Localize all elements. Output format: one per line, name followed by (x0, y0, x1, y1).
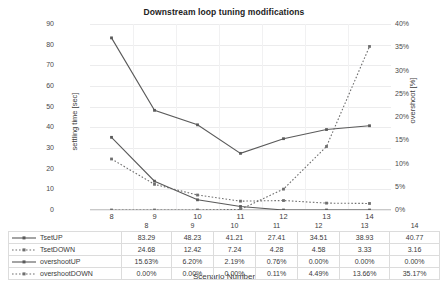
data-point-marker (153, 180, 156, 183)
y-axis-left-tick-label: 0 (26, 206, 54, 213)
y-axis-left-tick-label: 90 (26, 20, 54, 27)
data-point-marker (196, 194, 199, 197)
table-cell: 83.29 (122, 232, 172, 244)
data-point-marker (153, 209, 156, 210)
table-cell: 0.00% (213, 268, 255, 280)
y-axis-left-tick-label: 30 (26, 144, 54, 151)
legend-marker-tsetup (11, 234, 37, 242)
data-point-marker (282, 137, 285, 140)
legend-label: TsetUP (40, 234, 63, 241)
data-point-marker (282, 188, 285, 191)
series-line-overshootup (112, 137, 370, 210)
table-cell: 38.93 (340, 232, 390, 244)
legend-item-tsetdown[interactable]: TsetDOWN (9, 244, 122, 256)
data-point-marker (282, 209, 285, 210)
table-row: TsetUP83.2948.2341.2127.4134.5138.9340.7… (9, 232, 440, 244)
data-point-marker (110, 158, 113, 161)
table-cell: 6.20% (171, 256, 213, 268)
data-point-marker (196, 209, 199, 210)
table-cell: 0.00% (171, 268, 213, 280)
legend-marker-overshootdown (11, 270, 37, 278)
table-cell: 0.00% (298, 256, 340, 268)
y-axis-right-tick-label: 5% (395, 183, 425, 190)
table-cell: 4.58 (298, 244, 340, 256)
legend-item-tsetup[interactable]: TsetUP (9, 232, 122, 244)
table-column-header: 14 (390, 220, 440, 232)
table-column-header: 13 (340, 220, 390, 232)
table-column-header: 8 (122, 220, 172, 232)
data-point-marker (325, 145, 328, 148)
table-cell: 0.00% (340, 256, 390, 268)
table-cell: 12.42 (171, 244, 213, 256)
data-point-marker (368, 45, 371, 48)
chart-title: Downstream loop tuning modifications (0, 7, 448, 17)
chart-container: Downstream loop tuning modifications 010… (0, 0, 448, 290)
table-cell: 3.33 (340, 244, 390, 256)
table-cell: 0.00% (390, 256, 440, 268)
legend-label: TsetDOWN (40, 246, 75, 253)
table-header-row: 891011121314 (9, 220, 440, 232)
y-axis-right-tick-label: 10% (395, 160, 425, 167)
y-axis-left-tick-label: 20 (26, 165, 54, 172)
table-row: overshootDOWN0.00%0.00%0.00%0.11%4.49%13… (9, 268, 440, 280)
table-cell: 3.16 (390, 244, 440, 256)
table-column-header: 9 (171, 220, 213, 232)
y-axis-left-tick-label: 40 (26, 123, 54, 130)
data-point-marker (196, 123, 199, 126)
table-cell: 0.00% (122, 268, 172, 280)
data-point-marker (110, 209, 113, 210)
table-cell: 0.76% (256, 256, 298, 268)
table-cell: 48.23 (171, 232, 213, 244)
data-point-marker (239, 208, 242, 210)
y-axis-left-tick-label: 70 (26, 61, 54, 68)
table-cell: 27.41 (256, 232, 298, 244)
table-column-header: 10 (213, 220, 255, 232)
table-cell: 2.19% (213, 256, 255, 268)
table-cell: 35.17% (390, 268, 440, 280)
table-cell: 41.21 (213, 232, 255, 244)
data-table: 891011121314TsetUP83.2948.2341.2127.4134… (8, 220, 440, 280)
y-axis-left-tick-label: 10 (26, 185, 54, 192)
data-point-marker (282, 199, 285, 202)
legend-label: overshootDOWN (40, 270, 93, 277)
table-cell: 7.24 (213, 244, 255, 256)
y-axis-left-tick-label: 50 (26, 103, 54, 110)
table-cell: 34.51 (298, 232, 340, 244)
table-corner-cell (9, 220, 122, 232)
y-axis-left-tick-label: 60 (26, 82, 54, 89)
data-point-marker (325, 202, 328, 205)
table-cell: 15.63% (122, 256, 172, 268)
y-axis-left-tick-label: 80 (26, 41, 54, 48)
data-point-marker (153, 183, 156, 186)
data-point-marker (153, 109, 156, 112)
gridline-horizontal (90, 210, 391, 211)
y-axis-right-tick-label: 40% (395, 20, 425, 27)
table-cell: 4.49% (298, 268, 340, 280)
y-axis-right-tick-label: 0% (395, 206, 425, 213)
legend-marker-overshootup (11, 258, 37, 266)
data-point-marker (110, 36, 113, 39)
data-point-marker (239, 152, 242, 155)
legend-item-overshootdown[interactable]: overshootDOWN (9, 268, 122, 280)
table-cell: 0.11% (256, 268, 298, 280)
data-point-marker (110, 136, 113, 139)
table-row: TsetDOWN24.6812.427.244.284.583.333.16 (9, 244, 440, 256)
table-cell: 24.68 (122, 244, 172, 256)
y-axis-left-title: settling time [sec] (70, 42, 79, 202)
table-cell: 4.28 (256, 244, 298, 256)
table-cell: 13.66% (340, 268, 390, 280)
data-point-marker (368, 124, 371, 127)
series-layer (90, 24, 391, 210)
data-point-marker (368, 209, 371, 210)
table-column-header: 12 (298, 220, 340, 232)
table-cell: 40.77 (390, 232, 440, 244)
legend-item-overshootup[interactable]: overshootUP (9, 256, 122, 268)
data-point-marker (239, 200, 242, 203)
data-point-marker (325, 128, 328, 131)
data-point-marker (325, 209, 328, 210)
legend-marker-tsetdown (11, 246, 37, 254)
data-point-marker (196, 198, 199, 201)
series-line-overshootdown (112, 46, 370, 210)
table-row: overshootUP15.63%6.20%2.19%0.76%0.00%0.0… (9, 256, 440, 268)
data-point-marker (239, 205, 242, 208)
